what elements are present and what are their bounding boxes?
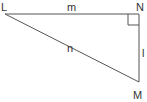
vertex-label-m: M — [133, 89, 142, 101]
vertex-label-l: L — [1, 1, 7, 13]
triangle-diagram: L N M m l n — [0, 0, 147, 102]
vertex-label-n: N — [136, 1, 144, 13]
side-label-m: m — [67, 1, 76, 13]
side-label-n: n — [67, 42, 73, 54]
right-angle-marker — [128, 14, 139, 25]
side-label-l: l — [142, 47, 144, 59]
